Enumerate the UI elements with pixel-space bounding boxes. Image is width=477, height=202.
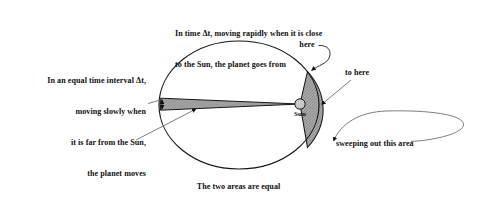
caption-bottom: The two areas are equal	[0, 182, 477, 192]
leader-to-here-right	[322, 80, 352, 105]
caption-left: In an equal time interval Δt, moving slo…	[8, 55, 146, 202]
figure-canvas: In time Δt, moving rapidly when it is cl…	[0, 0, 477, 202]
label-to-here-right: to here	[345, 68, 369, 78]
caption-left-line-2: moving slowly when	[8, 107, 146, 117]
caption-top-line-1: In time Δt, moving rapidly when it is cl…	[175, 29, 322, 39]
shaded-area-left	[160, 98, 300, 110]
caption-left-line-4: the planet moves	[8, 169, 146, 179]
caption-top-line-2: to the Sun, the planet goes from	[175, 60, 322, 70]
caption-left-line-1: In an equal time interval Δt,	[8, 76, 146, 86]
sun-body	[295, 99, 305, 109]
label-sweeping-out-this-area-right: sweeping out this area	[336, 139, 414, 149]
label-here-top: here	[290, 40, 324, 50]
caption-left-line-5: from here	[8, 201, 146, 202]
leader-sweeping-right	[334, 111, 464, 142]
label-sun: Sun	[287, 110, 313, 118]
caption-left-line-3: it is far from the Sun,	[8, 138, 146, 148]
